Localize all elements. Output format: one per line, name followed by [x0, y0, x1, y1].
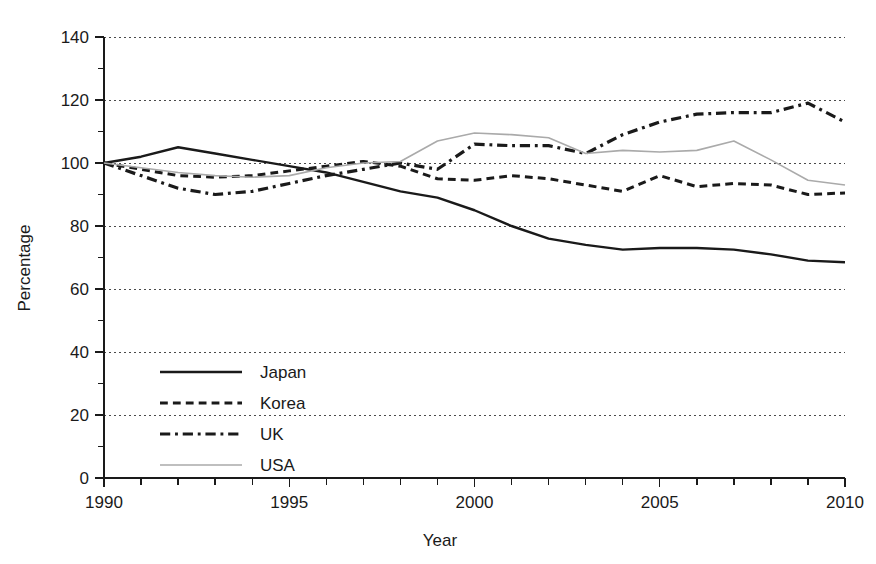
- y-tick-label: 0: [80, 469, 89, 488]
- data-series-group: [104, 103, 845, 262]
- series-line-japan: [104, 147, 845, 262]
- legend-label-japan: Japan: [260, 363, 306, 382]
- y-tick-label: 140: [61, 28, 89, 47]
- legend-label-uk: UK: [260, 425, 284, 444]
- y-tick-label: 120: [61, 91, 89, 110]
- y-axis: [95, 37, 104, 478]
- chart-container: 19901995200020052010 020406080100120140 …: [0, 0, 876, 564]
- series-line-korea: [104, 161, 845, 194]
- y-tick-label: 80: [70, 217, 89, 236]
- x-tick-label: 2010: [826, 493, 864, 512]
- y-tick-label: 100: [61, 154, 89, 173]
- legend: JapanKoreaUKUSA: [160, 363, 306, 475]
- y-tick-labels: 020406080100120140: [61, 28, 89, 488]
- y-tick-label: 40: [70, 343, 89, 362]
- gridlines: [104, 37, 845, 415]
- legend-label-usa: USA: [260, 456, 296, 475]
- x-tick-label: 1995: [270, 493, 308, 512]
- x-tick-labels: 19901995200020052010: [85, 493, 864, 512]
- x-axis-title: Year: [423, 531, 458, 550]
- y-axis-title: Percentage: [15, 225, 34, 312]
- x-tick-label: 2005: [641, 493, 679, 512]
- line-chart: 19901995200020052010 020406080100120140 …: [0, 0, 876, 564]
- y-tick-label: 20: [70, 406, 89, 425]
- y-tick-label: 60: [70, 280, 89, 299]
- x-tick-label: 1990: [85, 493, 123, 512]
- x-tick-label: 2000: [456, 493, 494, 512]
- series-line-usa: [104, 133, 845, 185]
- x-axis: [104, 478, 845, 487]
- legend-label-korea: Korea: [260, 394, 306, 413]
